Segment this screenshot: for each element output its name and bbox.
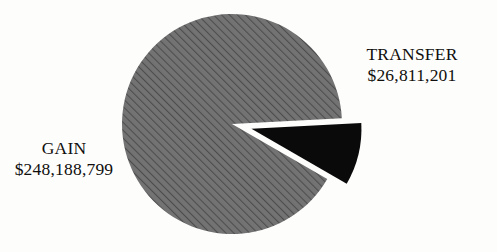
pie-label-gain-name: GAIN (2, 138, 126, 159)
pie-label-transfer-name: TRANSFER (352, 44, 472, 65)
pie-slices (122, 14, 361, 234)
pie-label-gain-value: $248,188,799 (2, 159, 126, 180)
pie-slice-gain[interactable] (122, 14, 342, 234)
pie-label-transfer: TRANSFER $26,811,201 (352, 44, 472, 85)
pie-label-transfer-value: $26,811,201 (352, 65, 472, 86)
pie-label-gain: GAIN $248,188,799 (2, 138, 126, 179)
pie-chart-figure: TRANSFER $26,811,201 GAIN $248,188,799 (0, 0, 497, 252)
pie-chart-canvas (0, 0, 497, 252)
